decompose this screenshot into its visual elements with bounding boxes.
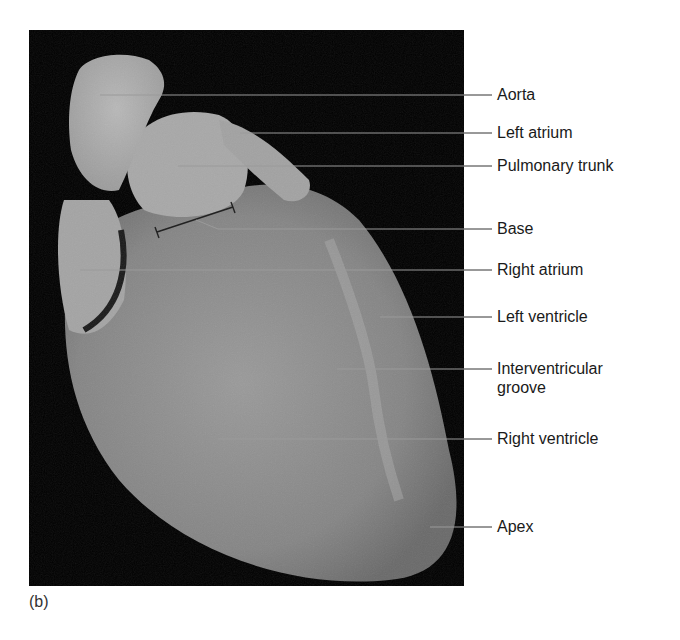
label-right-ventricle: Right ventricle [497,429,598,448]
label-text: Interventricular [497,360,603,377]
label-text: Apex [497,518,533,535]
label-base: Base [497,219,533,238]
label-left-ventricle: Left ventricle [497,307,588,326]
label-text-line2: groove [497,379,546,396]
label-left-atrium: Left atrium [497,123,573,142]
figure-caption: (b) [29,593,49,611]
label-text: Right atrium [497,261,583,278]
label-apex: Apex [497,517,533,536]
label-pulmonary-trunk: Pulmonary trunk [497,156,614,175]
label-right-atrium: Right atrium [497,260,583,279]
heart-anatomy-figure: AortaLeft atriumPulmonary trunkBaseRight… [0,0,680,640]
label-text: Pulmonary trunk [497,157,614,174]
label-text: Aorta [497,86,535,103]
label-aorta: Aorta [497,85,535,104]
label-text: Right ventricle [497,430,598,447]
label-interventricular-groove: Interventriculargroove [497,359,603,397]
label-text: Left ventricle [497,308,588,325]
base-bracket [155,202,235,238]
label-text: Left atrium [497,124,573,141]
label-text: Base [497,220,533,237]
